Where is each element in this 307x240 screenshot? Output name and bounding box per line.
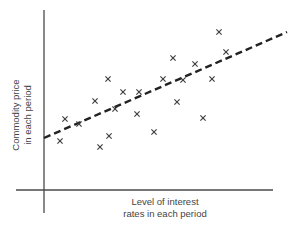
x-marker — [57, 138, 62, 143]
x-marker — [106, 133, 111, 138]
x-marker — [105, 76, 110, 81]
x-marker — [97, 144, 102, 149]
x-axis-label-line-1: Level of interest — [100, 196, 230, 208]
x-marker — [170, 55, 175, 60]
x-marker — [134, 111, 139, 116]
x-axis-label: Level of interest rates in each period — [100, 196, 230, 220]
data-points — [57, 29, 228, 149]
x-marker — [192, 61, 197, 66]
x-marker — [209, 76, 214, 81]
x-marker — [160, 76, 165, 81]
x-marker — [136, 89, 141, 94]
x-marker — [200, 115, 205, 120]
y-axis-label: Commodity price in each period — [2, 60, 42, 170]
x-marker — [180, 77, 185, 82]
x-marker — [216, 29, 221, 34]
x-marker — [174, 99, 179, 104]
x-marker — [151, 129, 156, 134]
x-marker — [62, 116, 67, 121]
y-axis-label-line-1: Commodity price — [10, 79, 22, 150]
x-axis-label-line-2: rates in each period — [100, 208, 230, 220]
x-marker — [92, 98, 97, 103]
x-marker — [223, 49, 228, 54]
x-marker — [120, 89, 125, 94]
y-axis-label-line-2: in each period — [22, 79, 34, 150]
